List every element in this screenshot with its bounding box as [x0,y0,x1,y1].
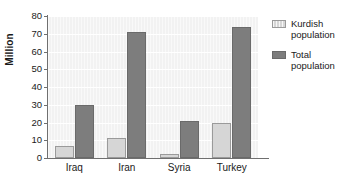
y-tick-label: 20 [20,118,42,128]
x-tick-label-iran: Iran [101,161,154,174]
bar-group [101,16,154,158]
chart-legend: Kurdish populationTotal population [272,18,351,80]
y-tick-label: 30 [20,100,42,110]
bar-chart-figure: Million 01020304050607080 IraqIranSyriaT… [0,0,351,187]
legend-swatch-icon [272,20,286,28]
legend-label: Total population [291,49,351,71]
x-axis-line [47,158,269,159]
y-tick-mark [44,140,47,141]
x-tick-label-turkey: Turkey [206,161,259,174]
y-tick-mark [44,52,47,53]
plot-area [48,16,258,158]
x-axis-tick-labels: IraqIranSyriaTurkey [48,161,258,177]
y-tick-mark [44,69,47,70]
bar-group [48,16,101,158]
x-tick-label-syria: Syria [153,161,206,174]
y-tick-mark [44,158,47,159]
y-tick-label: 80 [20,11,42,21]
bar-iran-kurdish [107,138,126,158]
y-tick-label: 60 [20,47,42,57]
bar-iraq-kurdish [55,146,74,158]
legend-swatch-icon [272,51,286,59]
y-tick-mark [44,16,47,17]
legend-label: Kurdish population [291,18,351,40]
legend-item-kurdish-population: Kurdish population [272,18,351,40]
y-tick-mark [44,87,47,88]
y-axis-line [47,15,48,159]
y-tick-label: 40 [20,82,42,92]
bar-iraq-total [75,105,94,158]
bar-turkey-total [232,27,251,158]
bar-turkey-kurdish [212,123,231,159]
y-tick-label: 10 [20,135,42,145]
bar-group [206,16,259,158]
y-tick-mark [44,34,47,35]
y-axis-title: Million [0,14,18,84]
bar-iran-total [127,32,146,158]
y-axis-tick-labels: 01020304050607080 [20,11,42,163]
y-tick-label: 70 [20,29,42,39]
y-axis-title-text: Million [4,33,15,65]
bar-group [153,16,206,158]
legend-item-total-population: Total population [272,49,351,71]
y-tick-label: 50 [20,64,42,74]
y-tick-mark [44,123,47,124]
y-tick-mark [44,105,47,106]
bar-syria-total [180,121,199,158]
y-tick-label: 0 [20,153,42,163]
x-tick-label-iraq: Iraq [48,161,101,174]
